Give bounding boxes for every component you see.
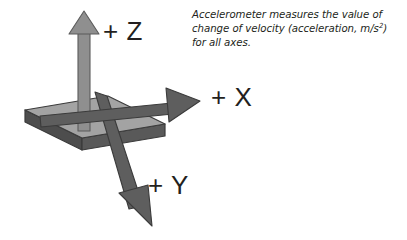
y-axis-label: + Y xyxy=(148,172,189,198)
caption-line-2-post: ) xyxy=(383,23,387,34)
caption-line-2-pre: change of velocity (acceleration, m/s xyxy=(192,23,379,34)
caption-line-3: for all axes. xyxy=(192,36,404,50)
accelerometer-axes-figure: + Z + X + Y Accelerometer measures the v… xyxy=(0,0,407,240)
caption-line-1: Accelerometer measures the value of xyxy=(192,8,404,22)
x-axis-arrowhead xyxy=(166,88,200,122)
z-axis-label: + Z xyxy=(103,18,143,44)
caption-line-2: change of velocity (acceleration, m/s2) xyxy=(192,22,404,36)
x-axis-label: + X xyxy=(211,84,252,110)
caption-text: Accelerometer measures the value of chan… xyxy=(192,8,404,51)
z-axis-arrowhead xyxy=(69,11,99,34)
